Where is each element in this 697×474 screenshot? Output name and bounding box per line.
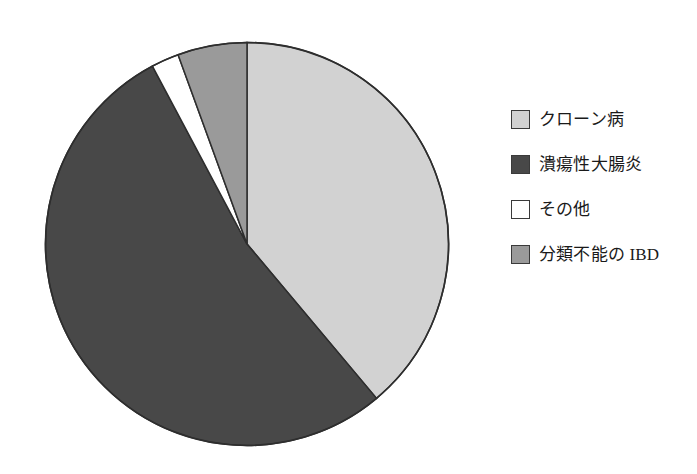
legend-swatch-other [511,200,530,219]
legend-item-ulcerative-colitis[interactable]: 潰瘍性大腸炎 [511,153,691,175]
legend: クローン病 潰瘍性大腸炎 その他 分類不能の IBD [511,108,691,288]
pie-chart [44,41,450,447]
pie-chart-figure: クローン病 潰瘍性大腸炎 その他 分類不能の IBD [0,0,697,474]
legend-swatch-crohn [511,110,530,129]
legend-label-crohn: クローン病 [539,110,624,129]
legend-item-crohn[interactable]: クローン病 [511,108,691,130]
pie-chart-svg [44,41,450,447]
legend-item-other[interactable]: その他 [511,198,691,220]
legend-swatch-unclassified-ibd [511,245,530,264]
legend-label-unclassified-ibd: 分類不能の IBD [539,245,659,264]
pie-slice-group [45,43,448,446]
legend-item-unclassified-ibd[interactable]: 分類不能の IBD [511,243,691,265]
legend-label-other: その他 [539,200,591,219]
legend-label-ulcerative-colitis: 潰瘍性大腸炎 [539,155,642,174]
legend-swatch-ulcerative-colitis [511,155,530,174]
